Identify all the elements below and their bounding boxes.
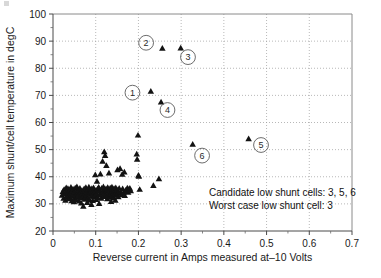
y-tick-label-100: 100: [29, 9, 46, 20]
chart-figure: 203040506070809010000.10.20.30.40.50.60.…: [0, 0, 381, 278]
callout-label-3: 3: [185, 52, 190, 62]
scan-artifact: [4, 1, 9, 6]
y-tick-label-80: 80: [35, 63, 47, 74]
y-tick-label-60: 60: [35, 117, 47, 128]
callout-label-5: 5: [259, 140, 264, 150]
scatter-plot: 203040506070809010000.10.20.30.40.50.60.…: [0, 0, 381, 278]
x-tick-label-0.5: 0.5: [260, 238, 274, 249]
x-tick-label-0.2: 0.2: [131, 238, 145, 249]
callout-label-2: 2: [144, 38, 149, 48]
x-tick-label-0: 0: [50, 238, 56, 249]
y-tick-label-30: 30: [35, 198, 47, 209]
x-tick-label-0.3: 0.3: [174, 238, 188, 249]
y-tick-label-90: 90: [35, 36, 47, 47]
y-axis-title: Maximum shunt/cell temperature in degC: [4, 26, 16, 218]
y-tick-label-40: 40: [35, 171, 47, 182]
annotation-line-1: Candidate low shunt cells: 3, 5, 6: [209, 187, 356, 198]
x-axis-title: Reverse current in Amps measured at–10 V…: [93, 251, 312, 263]
annotation-line-2: Worst case low shunt cell: 3: [209, 200, 333, 211]
y-tick-label-20: 20: [35, 226, 47, 237]
x-tick-label-0.7: 0.7: [345, 238, 359, 249]
callout-label-6: 6: [200, 151, 205, 161]
callout-label-1: 1: [130, 88, 135, 98]
y-tick-label-70: 70: [35, 90, 47, 101]
x-tick-label-0.4: 0.4: [217, 238, 231, 249]
x-tick-label-0.6: 0.6: [302, 238, 316, 249]
x-tick-label-0.1: 0.1: [89, 238, 103, 249]
y-tick-label-50: 50: [35, 144, 47, 155]
callout-label-4: 4: [165, 105, 170, 115]
